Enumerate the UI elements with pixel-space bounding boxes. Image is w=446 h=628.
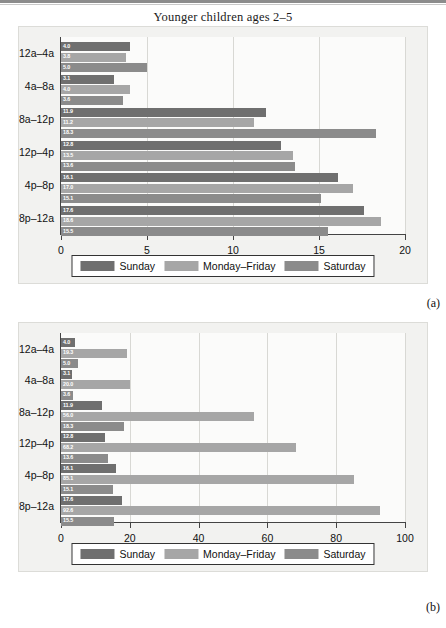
legend-item-saturday: Saturday: [284, 548, 365, 560]
bar-sunday: 11.9: [61, 401, 102, 410]
y-category-label: 4a–8a: [25, 374, 54, 386]
axes-b: 02040608010012a–4a4.019.35.04a–8a3.120.0…: [60, 333, 405, 523]
bar-value-label: 92.6: [63, 508, 73, 513]
bar-value-label: 4.0: [63, 44, 70, 49]
y-category-label: 8p–12a: [19, 500, 54, 512]
bar-monday-friday: 17.0: [61, 184, 353, 193]
plot-area-b: 02040608010012a–4a4.019.35.04a–8a3.120.0…: [18, 322, 428, 572]
bar-sunday: 17.6: [61, 206, 364, 215]
bar-saturday: 15.5: [61, 517, 114, 526]
category-group: 8p–12a17.692.615.5: [61, 491, 405, 523]
bar-value-label: 17.6: [63, 208, 73, 213]
bar-saturday: 15.5: [61, 227, 328, 236]
legend-item-sunday: Sunday: [80, 260, 155, 272]
category-group: 12p–4p12.813.513.6: [61, 136, 405, 169]
legend-label: Sunday: [119, 260, 155, 272]
x-tick: [130, 522, 131, 528]
legend-label: Saturday: [323, 260, 365, 272]
y-category-label: 12p–4p: [19, 146, 54, 158]
bar-sunday: 17.6: [61, 496, 122, 505]
y-category-label: 8a–12p: [19, 406, 54, 418]
bar-value-label: 56.0: [63, 413, 73, 418]
bar-monday-friday: 19.3: [61, 349, 127, 358]
bar-monday-friday: 92.6: [61, 506, 380, 515]
x-tick: [336, 522, 337, 528]
legend-swatch: [80, 549, 114, 559]
bar-sunday: 4.0: [61, 42, 130, 51]
legend-label: Saturday: [323, 548, 365, 560]
legend-b: SundayMonday–FridaySaturday: [71, 543, 374, 565]
bar-monday-friday: 56.0: [61, 412, 254, 421]
category-group: 12a–4a4.019.35.0: [61, 333, 405, 365]
legend-item-monday-friday: Monday–Friday: [164, 548, 275, 560]
gridline: [405, 37, 406, 234]
legend-a: SundayMonday–FridaySaturday: [71, 255, 374, 277]
category-group: 4p–8p16.117.015.1: [61, 168, 405, 201]
bar-monday-friday: 68.2: [61, 443, 296, 452]
x-tick: [405, 234, 406, 240]
y-category-label: 12a–4a: [19, 47, 54, 59]
legend-swatch: [284, 261, 318, 271]
bar-monday-friday: 18.6: [61, 217, 381, 226]
bar-value-label: 3.1: [63, 77, 70, 82]
bar-sunday: 3.1: [61, 370, 72, 379]
bar-sunday: 11.9: [61, 108, 266, 117]
y-category-label: 4a–8a: [25, 80, 54, 92]
bar-sunday: 12.8: [61, 141, 281, 150]
bar-monday-friday: 20.0: [61, 380, 130, 389]
bar-value-label: 4.0: [63, 340, 70, 345]
bar-value-label: 17.6: [63, 497, 73, 502]
x-tick: [267, 522, 268, 528]
bar-value-label: 15.5: [63, 518, 73, 523]
legend-swatch: [284, 549, 318, 559]
bar-sunday: 16.1: [61, 464, 116, 473]
panel-tag-b: (b): [426, 600, 440, 615]
legend-item-sunday: Sunday: [80, 548, 155, 560]
y-category-label: 12a–4a: [19, 343, 54, 355]
chart-panel-a: Younger children ages 2–5 0510152012a–4a…: [0, 8, 446, 318]
legend-item-monday-friday: Monday–Friday: [164, 260, 275, 272]
bar-monday-friday: 85.1: [61, 475, 354, 484]
bar-value-label: 3.8: [63, 54, 70, 59]
bar-value-label: 85.1: [63, 476, 73, 481]
category-group: 8p–12a17.618.615.5: [61, 201, 405, 234]
category-group: 4a–8a3.120.03.6: [61, 365, 405, 397]
bar-value-label: 11.2: [63, 120, 73, 125]
bar-value-label: 18.6: [63, 218, 73, 223]
panel-tag-a: (a): [427, 296, 440, 311]
bar-monday-friday: 13.5: [61, 151, 293, 160]
page-rule-top: [0, 0, 446, 3]
chart-panel-b: 02040608010012a–4a4.019.35.04a–8a3.120.0…: [0, 322, 446, 622]
page-rule-top-thin: [0, 4, 446, 5]
legend-label: Sunday: [119, 548, 155, 560]
bar-sunday: 16.1: [61, 173, 338, 182]
y-category-label: 8p–12a: [19, 212, 54, 224]
category-group: 12p–4p12.868.213.6: [61, 428, 405, 460]
bar-value-label: 3.1: [63, 371, 70, 376]
bar-value-label: 13.5: [63, 153, 73, 158]
bar-value-label: 16.1: [63, 175, 73, 180]
gridline: [405, 333, 406, 522]
category-group: 4a–8a3.14.03.6: [61, 70, 405, 103]
bar-value-label: 4.0: [63, 87, 70, 92]
x-tick: [405, 522, 406, 528]
axes-a: 0510152012a–4a4.03.85.04a–8a3.14.03.68a–…: [60, 37, 405, 235]
bar-value-label: 17.0: [63, 186, 73, 191]
category-group: 12a–4a4.03.85.0: [61, 37, 405, 70]
y-category-label: 12p–4p: [19, 437, 54, 449]
bar-value-label: 20.0: [63, 382, 73, 387]
y-category-label: 4p–8p: [25, 179, 54, 191]
plot-area-a: 0510152012a–4a4.03.85.04a–8a3.14.03.68a–…: [18, 26, 428, 284]
bar-value-label: 11.9: [63, 403, 73, 408]
bar-sunday: 12.8: [61, 433, 105, 442]
x-tick: [199, 522, 200, 528]
bar-value-label: 68.2: [63, 445, 73, 450]
bar-value-label: 12.8: [63, 434, 73, 439]
category-group: 8a–12p11.911.218.3: [61, 103, 405, 136]
bar-value-label: 16.1: [63, 466, 73, 471]
bar-monday-friday: 3.8: [61, 53, 126, 62]
legend-swatch: [164, 261, 198, 271]
bar-sunday: 3.1: [61, 75, 114, 84]
bar-sunday: 4.0: [61, 338, 75, 347]
bar-value-label: 11.9: [63, 109, 73, 114]
